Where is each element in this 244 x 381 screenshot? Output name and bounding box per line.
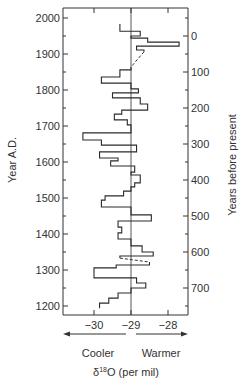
oxygen-isotope-chart: 200019001800170016001500140013001200 010…	[0, 0, 244, 381]
warmer-label: Warmer	[142, 347, 181, 359]
right-tick-label: 100	[191, 66, 209, 78]
bottom-axis-delta18o: −30−29−28	[85, 310, 178, 331]
dashed-gap-segment	[120, 258, 150, 262]
right-tick-label: 500	[191, 210, 209, 222]
cooler-arrow	[63, 332, 126, 337]
left-tick-label: 1200	[36, 300, 60, 312]
left-tick-label: 1400	[36, 228, 60, 240]
right-tick-label: 400	[191, 174, 209, 186]
left-tick-label: 2000	[36, 12, 60, 24]
right-tick-label: 700	[191, 282, 209, 294]
left-tick-label: 1500	[36, 192, 60, 204]
right-tick-label: 0	[191, 30, 197, 42]
left-tick-label: 1800	[36, 84, 60, 96]
left-tick-label: 1700	[36, 120, 60, 132]
right-tick-label: 600	[191, 246, 209, 258]
right-tick-label: 200	[191, 102, 209, 114]
cooler-label: Cooler	[82, 347, 115, 359]
arrow-right-icon	[181, 332, 188, 337]
y-axis-left-title: Year A.D.	[6, 137, 18, 183]
bottom-tick-label: −28	[159, 319, 178, 331]
dashed-gap-segment	[131, 52, 144, 67]
x-axis-title: δ18O (per mil)	[93, 366, 159, 378]
left-tick-label: 1900	[36, 48, 60, 60]
y-axis-right-title: Years before present	[226, 114, 238, 216]
warmer-arrow	[136, 332, 188, 337]
plot-frame	[63, 8, 188, 315]
right-axis-years-before-present: 0100200300400500600700	[183, 18, 209, 306]
arrow-left-icon	[63, 332, 70, 337]
bottom-tick-label: −29	[122, 319, 141, 331]
bottom-tick-label: −30	[85, 319, 104, 331]
left-tick-label: 1600	[36, 156, 60, 168]
left-tick-label: 1300	[36, 264, 60, 276]
right-tick-label: 300	[191, 138, 209, 150]
